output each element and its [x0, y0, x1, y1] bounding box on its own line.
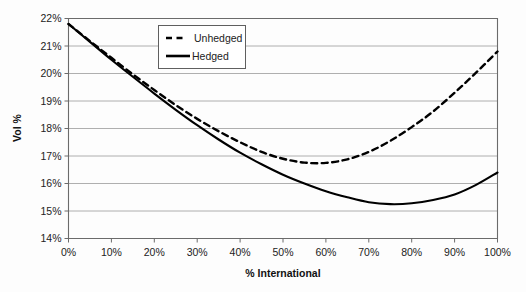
x-tick-label: 70% — [358, 246, 379, 258]
y-tick-label: 21% — [40, 40, 61, 52]
vol-vs-international-line-chart: 14%15%16%17%18%19%20%21%22% 0%10%20%30%4… — [0, 0, 526, 292]
x-tick-label: 60% — [315, 246, 336, 258]
y-axis-tick-labels: 14%15%16%17%18%19%20%21%22% — [40, 12, 61, 244]
chart-canvas: 14%15%16%17%18%19%20%21%22% 0%10%20%30%4… — [0, 0, 526, 292]
y-tick-label: 15% — [40, 205, 61, 217]
series-line-hedged — [69, 24, 498, 204]
series-line-unhedged — [69, 24, 498, 163]
y-tick-label: 20% — [40, 67, 61, 79]
y-tick-label: 19% — [40, 95, 61, 107]
x-tick-label: 50% — [272, 246, 293, 258]
x-tick-label: 0% — [61, 246, 76, 258]
y-tick-label: 18% — [40, 122, 61, 134]
y-tick-label: 17% — [40, 150, 61, 162]
x-tick-label: 90% — [444, 246, 465, 258]
y-tick-label: 22% — [40, 12, 61, 24]
tick-marks-group — [65, 19, 498, 243]
legend-label-unhedged: Unhedged — [194, 32, 243, 44]
x-tick-label: 80% — [401, 246, 422, 258]
x-axis-tick-labels: 0%10%20%30%40%50%60%70%80%90%100% — [61, 246, 511, 258]
y-tick-label: 14% — [40, 232, 61, 244]
x-tick-label: 10% — [101, 246, 122, 258]
legend-label-hedged: Hedged — [192, 50, 229, 62]
y-tick-label: 16% — [40, 177, 61, 189]
x-tick-label: 30% — [187, 246, 208, 258]
x-tick-label: 20% — [144, 246, 165, 258]
x-tick-label: 40% — [230, 246, 251, 258]
chart-legend: Unhedged Hedged — [159, 26, 246, 69]
y-axis-title: Vol % — [11, 113, 23, 141]
gridlines-group — [69, 19, 498, 212]
x-tick-label: 100% — [484, 246, 511, 258]
series-group — [69, 24, 498, 204]
x-axis-title: % International — [245, 267, 320, 279]
